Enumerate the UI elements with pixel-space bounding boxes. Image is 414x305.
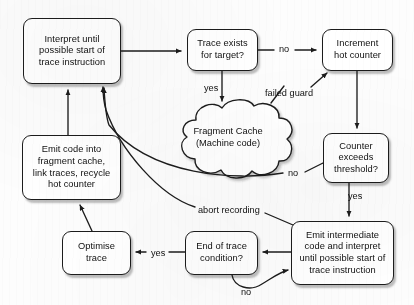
node-interpret-label: Interpret until possible start of trace … bbox=[39, 34, 105, 69]
node-optimise-trace[interactable]: Optimise trace bbox=[62, 231, 131, 275]
node-emit-code-into-fragment-cache[interactable]: Emit code into fragment cache, link trac… bbox=[22, 135, 121, 200]
node-trace-exists-label: Trace exists for target? bbox=[197, 38, 247, 61]
node-increment-hot-counter-label: Increment hot counter bbox=[334, 38, 381, 61]
edge-label-no-counter: no bbox=[288, 168, 298, 178]
edge-abort-recording-leader bbox=[265, 213, 293, 225]
edge-counter-no-segment bbox=[305, 163, 323, 172]
node-optimise-trace-label: Optimise trace bbox=[78, 241, 115, 264]
node-emit-code-into-fragment-cache-label: Emit code into fragment cache, link trac… bbox=[33, 144, 110, 190]
fragment-cache-cloud-shape bbox=[182, 100, 292, 178]
node-increment-hot-counter[interactable]: Increment hot counter bbox=[322, 29, 393, 71]
node-emit-intermediate-code[interactable]: Emit intermediate code and interpret unt… bbox=[291, 221, 394, 285]
edge-failed-guard-to-increment bbox=[311, 73, 327, 87]
edge-label-abort-recording: abort recording bbox=[198, 205, 260, 215]
edge-label-yes-end-of-trace: yes bbox=[151, 248, 165, 258]
node-end-of-trace-condition[interactable]: End of trace condition? bbox=[185, 231, 258, 275]
edge-optimise-to-emit-code bbox=[80, 205, 92, 231]
edge-label-yes-trace-exists: yes bbox=[204, 83, 218, 93]
node-counter-exceeds-threshold[interactable]: Counter exceeds threshold? bbox=[323, 133, 389, 183]
node-trace-exists[interactable]: Trace exists for target? bbox=[187, 29, 258, 71]
node-interpret[interactable]: Interpret until possible start of trace … bbox=[23, 18, 121, 84]
node-emit-intermediate-code-label: Emit intermediate code and interpret unt… bbox=[300, 230, 386, 276]
edge-label-yes-counter: yes bbox=[348, 191, 362, 201]
edge-label-no-end-of-trace: no bbox=[241, 287, 251, 297]
node-counter-exceeds-threshold-label: Counter exceeds threshold? bbox=[334, 141, 378, 176]
node-end-of-trace-condition-label: End of trace condition? bbox=[196, 241, 247, 264]
edge-label-failed-guard: failed guard bbox=[265, 88, 313, 98]
flowchart-canvas: Interpret until possible start of trace … bbox=[0, 0, 414, 305]
edge-label-no-trace-exists: no bbox=[279, 44, 289, 54]
